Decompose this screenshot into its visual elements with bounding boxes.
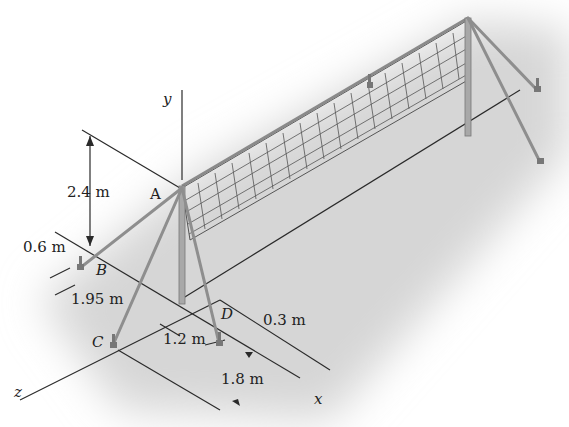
dim-height-A: 2.4 m <box>67 185 110 200</box>
dim-dist-C: 1.8 m <box>221 372 264 387</box>
point-label-B: B <box>96 263 107 278</box>
axis-label-x: x <box>314 392 322 407</box>
post-A <box>179 186 185 304</box>
point-label-C: C <box>92 335 103 350</box>
ground-shadow <box>40 20 569 420</box>
point-label-A: A <box>150 187 161 202</box>
axis-label-y: y <box>163 92 171 107</box>
dim-offset-D: 0.3 m <box>263 313 306 328</box>
dim-offset-B: 0.6 m <box>23 240 66 255</box>
diagram-graphic <box>0 0 569 427</box>
dim-dist-CD: 1.2 m <box>163 332 206 347</box>
axis-label-z: z <box>14 385 22 400</box>
point-label-D: D <box>221 307 233 322</box>
net-diagram: y x z A B C D 2.4 m 0.6 m 1.95 m 1.2 m 0… <box>0 0 569 427</box>
post-far <box>465 18 471 136</box>
dim-dist-B: 1.95 m <box>71 292 123 307</box>
